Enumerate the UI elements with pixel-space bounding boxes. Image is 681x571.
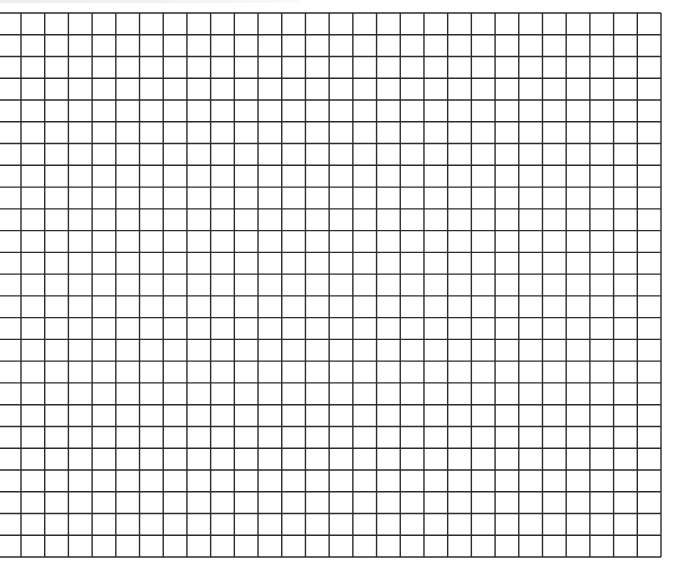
- grid-lines: [0, 13, 661, 557]
- grid-paper: [0, 0, 681, 571]
